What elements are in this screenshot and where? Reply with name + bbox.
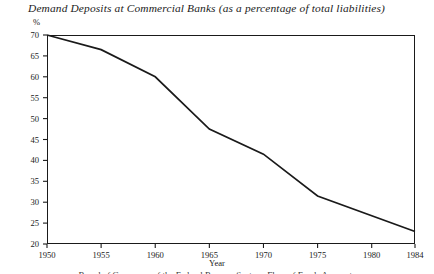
y-tick-label: 40	[17, 155, 39, 165]
y-tick-label: 35	[17, 176, 39, 186]
y-tick-label: 70	[17, 30, 39, 40]
y-tick-label: 55	[17, 93, 39, 103]
chart-figure: Demand Deposits at Commercial Banks (as …	[0, 0, 434, 274]
source-caption: Board of Governors of the Federal Reserv…	[0, 270, 434, 274]
y-tick-label: 45	[17, 135, 39, 145]
plot-area	[47, 35, 415, 244]
y-tick-label: 20	[17, 239, 39, 249]
chart-title: Demand Deposits at Commercial Banks (as …	[28, 1, 428, 15]
y-tick-label: 50	[17, 114, 39, 124]
x-tick-marks	[47, 244, 415, 248]
y-tick-label: 65	[17, 51, 39, 61]
y-tick-label: 30	[17, 197, 39, 207]
y-axis-unit-label: %	[33, 17, 40, 27]
x-axis-title: Year	[0, 258, 434, 268]
y-tick-label: 25	[17, 218, 39, 228]
y-tick-label: 60	[17, 72, 39, 82]
